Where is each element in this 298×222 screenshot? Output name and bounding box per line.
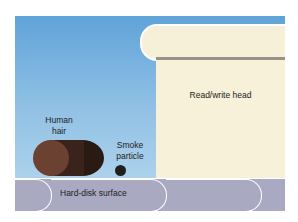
smoke-particle-icon	[115, 165, 126, 176]
human-hair-label-line2: hair	[39, 126, 79, 137]
human-hair-label: Human hair	[39, 115, 79, 137]
disk-arc-1	[15, 179, 52, 211]
diagram-panel: Read/write head Human hair Smoke particl…	[15, 16, 285, 211]
smoke-particle-label: Smoke particle	[107, 140, 153, 162]
read-write-head-label: Read/write head	[156, 90, 285, 100]
human-hair-label-line1: Human	[39, 115, 79, 126]
smoke-particle-label-line2: particle	[107, 151, 153, 162]
hard-disk-surface-label: Hard-disk surface	[60, 188, 127, 198]
hard-disk-surface	[15, 178, 285, 211]
read-write-head-body	[156, 60, 285, 189]
disk-arc-3	[166, 179, 262, 211]
human-hair-icon	[33, 140, 69, 176]
smoke-particle-label-line1: Smoke	[107, 140, 153, 151]
read-write-head-top	[140, 24, 285, 61]
